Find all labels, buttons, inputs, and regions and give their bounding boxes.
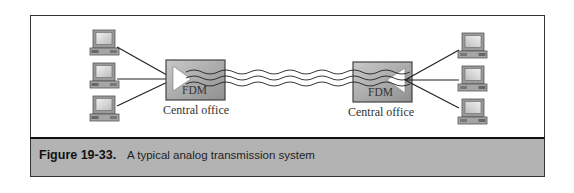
left-office-label: Central office (163, 103, 229, 118)
right-computer-1 (458, 33, 487, 58)
right-computer-2 (458, 66, 487, 91)
figure-caption: Figure 19-33. A typical analog transmiss… (30, 137, 545, 177)
right-office-label: Central office (348, 105, 414, 120)
figure-caption-text: A typical analog transmission system (127, 149, 315, 161)
left-computer-3 (90, 96, 119, 121)
left-fdm-label: FDM (182, 84, 207, 96)
figure-number: Figure 19-33. (39, 148, 116, 162)
left-computer-1 (90, 30, 119, 55)
left-computer-2 (90, 63, 119, 88)
right-computer-3 (458, 99, 487, 124)
right-connection-lines (405, 50, 459, 108)
right-fdm-label: FDM (368, 86, 393, 98)
